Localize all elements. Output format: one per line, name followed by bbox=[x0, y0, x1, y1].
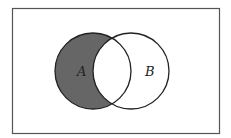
set-b-label: B bbox=[144, 64, 155, 79]
set-a-label: A bbox=[76, 64, 86, 79]
venn-diagram: A B bbox=[0, 0, 231, 138]
